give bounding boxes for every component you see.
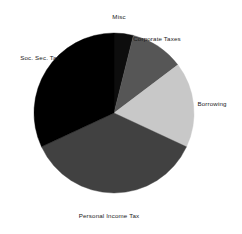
pie-chart-figure: Misc Corporate Taxes Borrowing Personal …	[0, 0, 242, 234]
pie-label-misc: Misc	[112, 14, 125, 20]
pie-label-personal-income-tax: Personal Income Tax	[79, 213, 140, 219]
pie-chart-canvas	[0, 0, 242, 234]
pie-label-borrowing: Borrowing	[197, 101, 226, 107]
pie-label-corporate-taxes: Corporate Taxes	[133, 36, 181, 42]
pie-label-soc-sec-tax: Soc. Sec. Tax	[20, 55, 60, 61]
